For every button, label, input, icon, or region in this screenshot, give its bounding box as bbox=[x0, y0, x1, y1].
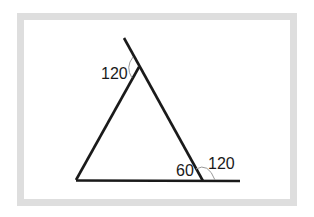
interior-angle-label: 60 bbox=[176, 162, 194, 179]
triangle-diagram: 120 60 120 bbox=[0, 0, 314, 217]
exterior-angle-label: 120 bbox=[208, 155, 235, 172]
frame bbox=[21, 17, 294, 203]
top-angle-label: 120 bbox=[101, 65, 128, 82]
base-extended bbox=[76, 181, 240, 182]
